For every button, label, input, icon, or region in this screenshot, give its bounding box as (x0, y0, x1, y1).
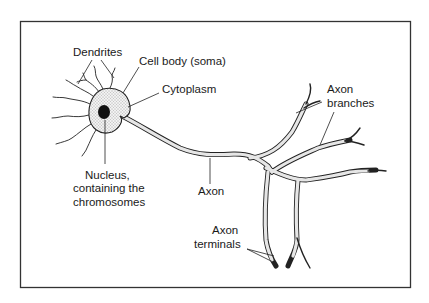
label-nucleus-line1: Nucleus, (85, 169, 130, 181)
axon (122, 84, 386, 268)
label-axon-terminals-line2: terminals (194, 238, 241, 250)
label-nucleus-line2: containing the (73, 182, 145, 194)
label-nucleus-line3: chromosomes (73, 196, 145, 208)
label-axon-branches-line1: Axon (327, 83, 353, 95)
label-cell-body: Cell body (soma) (139, 55, 226, 67)
label-cytoplasm: Cytoplasm (162, 83, 216, 95)
label-dendrites: Dendrites (73, 46, 122, 58)
label-axon-terminals-line1: Axon (212, 224, 238, 236)
label-axon: Axon (198, 185, 224, 197)
nucleus (98, 105, 110, 119)
label-axon-branches-line2: branches (327, 97, 375, 109)
neuron-diagram: Dendrites Cell body (soma) Cytoplasm Nuc… (0, 0, 429, 303)
